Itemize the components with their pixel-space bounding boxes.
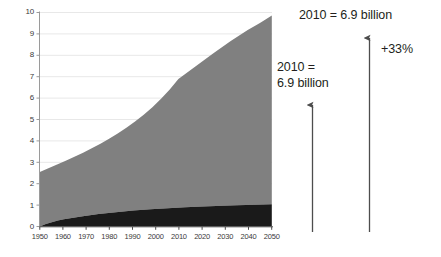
area-developing-regions [40,15,272,226]
y-tick-label: 4 [18,137,34,145]
annotation-total-2010-label: 2010 = 6.9 billion [299,8,392,24]
y-tick-label: 5 [18,116,34,124]
x-tick-label: 1990 [120,233,146,241]
plot-canvas [0,0,285,257]
figure-root: 10 9 8 7 6 5 4 3 2 1 0 1950 1960 1970 19… [0,0,441,257]
y-tick-label: 6 [18,94,34,102]
y-tick-label: 8 [18,51,34,59]
y-tick-label: 2 [18,180,34,188]
x-tick-label: 2000 [143,233,169,241]
y-tick-label: 0 [18,223,34,231]
stacked-area-chart: 10 9 8 7 6 5 4 3 2 1 0 1950 1960 1970 19… [0,0,285,257]
x-tick-label: 2030 [212,233,238,241]
annotation-left-2010-label: 2010 = 6.9 billion [277,60,329,91]
annotation-growth-percent-label: +33% [381,42,413,58]
x-tick-label: 2020 [189,233,215,241]
x-tick-label: 2010 [166,233,192,241]
x-tick-label: 2050 [259,233,285,241]
y-tick-label: 9 [18,30,34,38]
annotation-left-line1: 2010 = [277,60,315,74]
x-tick-label: 1970 [73,233,99,241]
x-tick-label: 1960 [50,233,76,241]
y-tick-label: 3 [18,159,34,167]
y-tick-label: 10 [18,8,34,16]
x-tick-label: 2040 [236,233,262,241]
x-tick-label: 1980 [96,233,122,241]
y-tick-label: 7 [18,73,34,81]
x-tick-label: 1950 [27,233,53,241]
annotation-left-line2: 6.9 billion [277,76,329,92]
y-tick-label: 1 [18,202,34,210]
